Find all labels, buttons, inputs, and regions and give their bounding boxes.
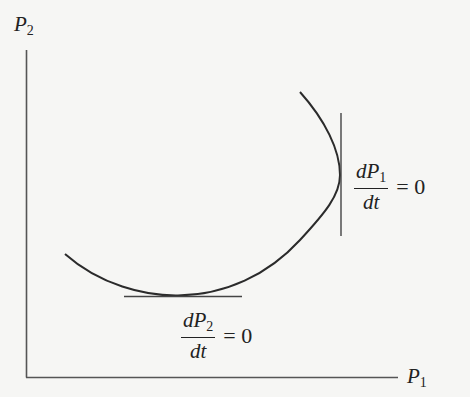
numerator-sub: 2 [206,319,213,334]
numerator-var: dP [356,159,379,183]
fraction-bar [354,188,388,189]
phase-plane-diagram: P2 P1 dP1 dt = 0 dP2 dt = 0 [0,0,470,397]
fraction-denominator: dt [188,340,208,362]
numerator-sub: 1 [379,170,386,185]
fraction-bar [181,337,215,338]
fraction-numerator: dP1 [354,160,388,186]
dP2-dt-equals-zero-label: dP2 dt = 0 [181,309,252,362]
y-axis-label: P2 [14,14,34,38]
equals-zero: = 0 [396,174,425,200]
x-axis-label: P1 [407,366,427,390]
dP1-dt-equals-zero-label: dP1 dt = 0 [354,160,425,213]
x-axis-label-sub: 1 [420,375,427,390]
fraction-numerator: dP2 [181,309,215,335]
y-axis-label-var: P [14,12,27,36]
x-axis-label-var: P [407,364,420,388]
equals-zero: = 0 [223,323,252,349]
trajectory-curve [65,92,340,296]
fraction-denominator: dt [361,191,381,213]
numerator-var: dP [183,308,206,332]
y-axis-label-sub: 2 [27,23,34,38]
